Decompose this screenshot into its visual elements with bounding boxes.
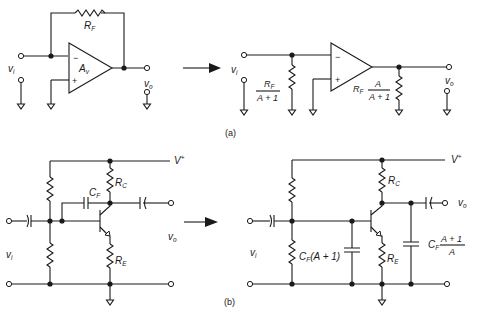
bias-resistor-top (289, 178, 295, 202)
ground-icon (379, 300, 386, 305)
input-terminal (18, 53, 23, 58)
caption-a: (a) (225, 128, 236, 138)
panel-a-left-opamp-circuit: vi vo RF Av − + (8, 10, 153, 109)
junction-dot (408, 281, 413, 286)
output-ground-terminal (444, 88, 449, 93)
feedback-capacitor-label: CF (89, 187, 101, 199)
input-coupling-capacitor (270, 215, 272, 227)
junction-dot (289, 218, 294, 223)
input-ground-terminal (6, 281, 11, 286)
output-miller-resistor (396, 76, 402, 100)
input-voltage-label: vi (6, 249, 13, 261)
collector-resistor (379, 168, 385, 192)
collector-resistor-label: RC (115, 177, 127, 189)
input-voltage-label: vi (231, 64, 238, 76)
junction-dot (349, 281, 354, 286)
panel-a-right-miller-equivalent: vi vo RF A + 1 RF A A + 1 − + (231, 43, 454, 115)
input-miller-capacitor-label: CF(A + 1) (299, 251, 340, 263)
feedback-resistor-label: RF (84, 20, 96, 32)
input-terminal (241, 52, 246, 57)
transform-arrow-b (184, 217, 218, 227)
output-ground-terminal (168, 281, 173, 286)
output-resistor-prefix: RF (353, 84, 365, 95)
input-miller-resistor (289, 65, 295, 89)
input-voltage-label: vi (8, 63, 15, 75)
inverting-input-sign: − (73, 53, 78, 63)
arrow-right-icon (209, 63, 221, 73)
feedback-capacitor (84, 197, 88, 209)
input-voltage-label: vi (250, 247, 257, 259)
junction-dot (47, 281, 52, 286)
junction-dot (289, 281, 294, 286)
output-voltage-label: vo (445, 75, 454, 87)
junction-dot (379, 281, 384, 286)
supply-voltage-label: V+ (451, 153, 462, 165)
panel-b-right-miller-equivalent: V+ CF(A + 1) RC RE (247, 153, 467, 305)
junction-dot (47, 218, 52, 223)
collector-resistor (107, 168, 113, 192)
bias-resistor-bottom (47, 243, 53, 267)
noninverting-input-sign: + (72, 76, 77, 86)
output-resistor-numerator: A (374, 79, 381, 89)
input-terminal (6, 218, 11, 223)
emitter-resistor (107, 244, 113, 268)
ground-icon (310, 110, 317, 115)
ground-icon (396, 110, 403, 115)
ground-icon (241, 110, 248, 115)
caption-b: (b) (224, 297, 235, 307)
bias-resistor-top (47, 177, 53, 201)
input-terminal (247, 218, 252, 223)
supply-voltage-label: V+ (174, 154, 185, 166)
output-miller-capacitor-numerator: A + 1 (440, 234, 462, 244)
bias-resistor-bottom (289, 240, 295, 264)
ground-icon (289, 110, 296, 115)
output-terminal (442, 200, 447, 205)
output-resistor-denominator: A + 1 (368, 92, 390, 102)
output-ground-terminal (144, 89, 149, 94)
output-voltage-label: vo (144, 78, 153, 90)
ground-icon (48, 104, 55, 109)
panel-b-left-transistor-amplifier: V+ CF RC RE (6, 154, 185, 305)
emitter-resistor-label: RE (115, 255, 127, 267)
output-terminal (446, 64, 451, 69)
ground-icon (107, 300, 114, 305)
ground-icon (18, 104, 25, 109)
emitter-resistor (379, 243, 385, 267)
collector-resistor-label: RC (388, 175, 400, 187)
input-ground-terminal (18, 77, 23, 82)
amp-gain-label: Av (78, 63, 90, 75)
emitter-resistor-label: RE (387, 253, 399, 265)
input-resistor-denominator: A + 1 (256, 93, 278, 103)
output-miller-capacitor-prefix: CF (428, 239, 440, 251)
ground-icon (144, 104, 151, 109)
output-terminal (168, 200, 173, 205)
input-resistor-numerator: RF (264, 79, 276, 90)
input-coupling-capacitor (27, 215, 29, 227)
inverting-input-sign: − (335, 52, 340, 62)
output-miller-capacitor (403, 242, 419, 246)
ground-icon (444, 110, 451, 115)
miller-effect-diagram: vi vo RF Av − + (0, 0, 477, 319)
output-terminal (144, 65, 149, 70)
input-miller-capacitor (344, 248, 360, 252)
arrow-right-icon (205, 217, 218, 227)
input-ground-terminal (247, 281, 252, 286)
input-ground-terminal (241, 77, 246, 82)
feedback-resistor (75, 10, 105, 16)
output-voltage-label: vo (168, 231, 177, 243)
noninverting-input-sign: + (335, 75, 340, 85)
output-voltage-label: vo (458, 197, 467, 209)
transform-arrow-a (183, 63, 221, 73)
junction-dot (107, 281, 112, 286)
junction-dot (121, 65, 126, 70)
output-ground-terminal (444, 281, 449, 286)
output-miller-capacitor-denominator: A (448, 247, 455, 257)
